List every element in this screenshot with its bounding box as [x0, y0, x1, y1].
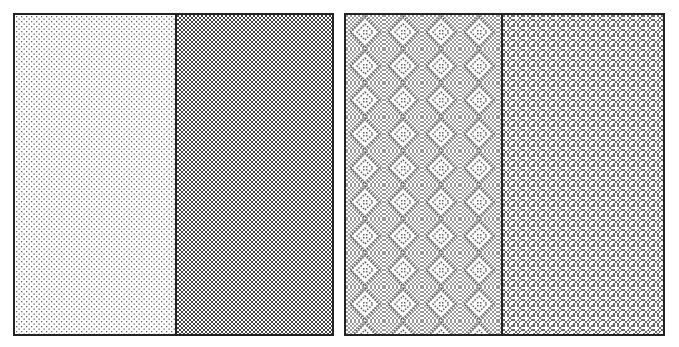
left-panel	[13, 13, 334, 336]
diamond-lattice-texture	[346, 15, 501, 334]
right-panel	[344, 13, 665, 336]
dense-dot-texture	[175, 15, 332, 334]
weave-texture	[501, 15, 663, 334]
fine-dot-texture	[15, 15, 175, 334]
